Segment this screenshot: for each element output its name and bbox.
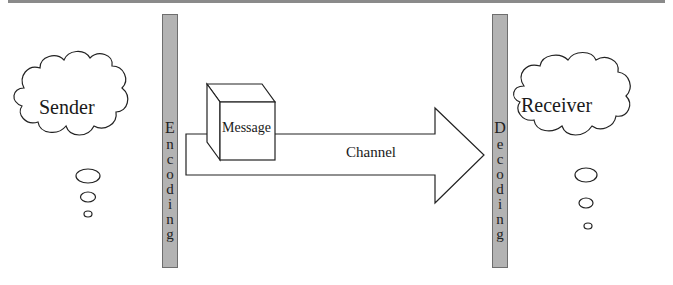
decoding-letter: g (496, 227, 504, 242)
encoding-letter: g (166, 227, 174, 242)
receiver-label: Receiver (521, 94, 592, 117)
sender-cloud-icon (14, 51, 128, 217)
communication-diagram (0, 0, 673, 285)
encoding-letter: d (166, 182, 174, 197)
decoding-letter: c (497, 152, 504, 167)
encoding-letter: c (167, 152, 174, 167)
channel-label: Channel (346, 144, 396, 161)
decoding-letter: D (494, 119, 506, 137)
encoding-letter: n (166, 212, 174, 227)
decoding-letter: e (497, 137, 504, 152)
encoding-letter: E (165, 119, 175, 137)
decoding-letter: n (496, 212, 504, 227)
sender-label: Sender (39, 96, 95, 119)
encoding-bar: E n c o d i n g (162, 14, 178, 268)
encoding-letter: o (166, 167, 174, 182)
decoding-letter: d (496, 182, 504, 197)
encoding-letter: i (168, 197, 172, 212)
message-label: Message (222, 120, 271, 136)
decoding-bar: D e c o d i n g (492, 14, 508, 268)
encoding-letter: n (166, 137, 174, 152)
receiver-cloud-icon (514, 53, 631, 230)
decoding-letter: i (498, 197, 502, 212)
decoding-letter: o (496, 167, 504, 182)
